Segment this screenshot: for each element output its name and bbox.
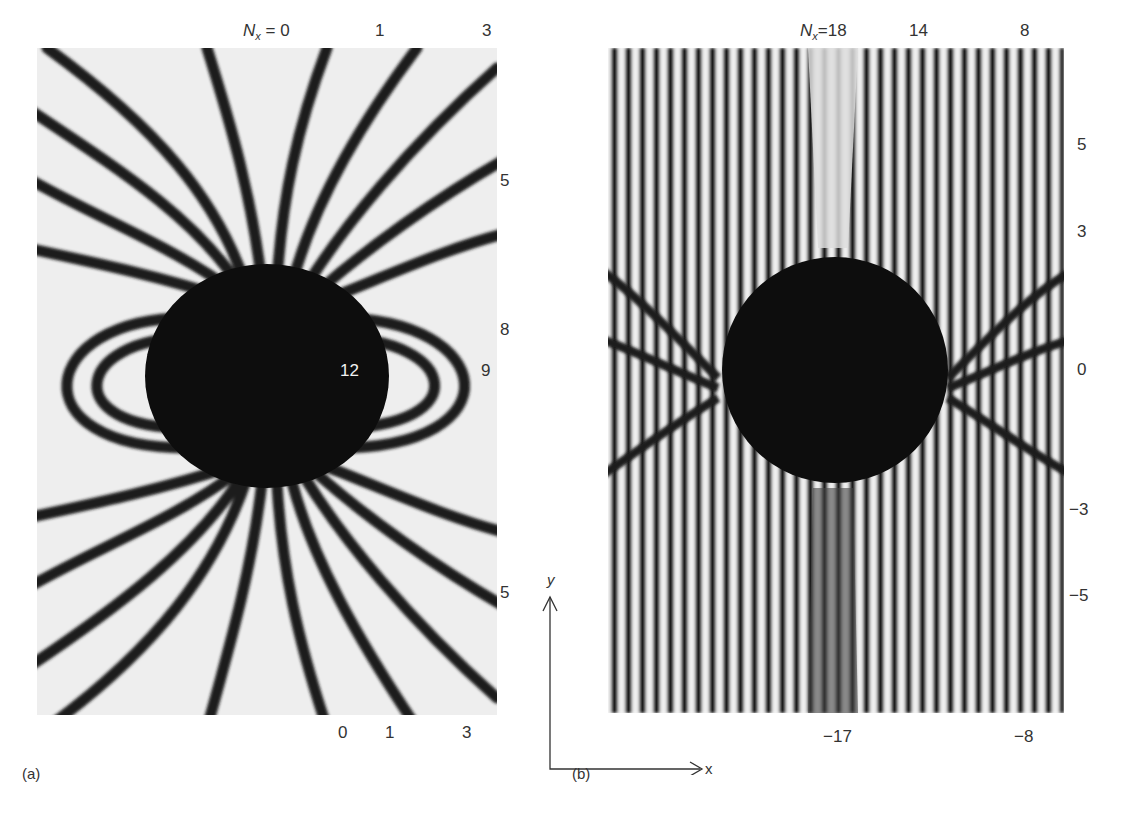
- panel-b-right-label-5: 5: [1077, 136, 1086, 153]
- panel-a-bottom-label-0: 0: [338, 724, 347, 741]
- fringe-order-9-label: 9: [481, 362, 490, 379]
- panel-b-right-label-0: 0: [1077, 361, 1086, 378]
- xy-axes-icon: [540, 585, 715, 775]
- panel-b-nx-label: Nx=18: [800, 22, 847, 42]
- fringe-order-12-label: 12: [340, 362, 359, 379]
- panel-a-bottom-label-1: 1: [385, 724, 394, 741]
- panel-a-caption: (a): [22, 765, 40, 782]
- fringe-photo-a: [37, 48, 497, 715]
- panel-b-right-label-3: 3: [1077, 223, 1086, 240]
- panel-a-nx-label: Nx = 0: [243, 22, 290, 42]
- panel-b-top-label-14: 14: [909, 22, 928, 39]
- y-axis-label: y: [547, 572, 555, 587]
- panel-b-bottom-label-minus-8: −8: [1014, 728, 1033, 745]
- panel-b-bottom-label-minus-17: −17: [823, 728, 852, 745]
- hole-b: [722, 257, 948, 483]
- panel-a-right-label-5-bottom: 5: [500, 584, 509, 601]
- panel-a-right-label-5-top: 5: [500, 172, 509, 189]
- panel-b-right-label-minus-5: −5: [1069, 587, 1088, 604]
- panel-a-top-label-1: 1: [375, 22, 384, 39]
- panel-b-top-label-8: 8: [1020, 22, 1029, 39]
- panel-b-right-label-minus-3: −3: [1069, 501, 1088, 518]
- panel-a-bottom-label-3: 3: [462, 724, 471, 741]
- panel-a-right-label-8: 8: [500, 321, 509, 338]
- fringe-pattern-a: [37, 48, 497, 715]
- panel-a-top-label-3: 3: [482, 22, 491, 39]
- x-axis-label: x: [705, 761, 713, 776]
